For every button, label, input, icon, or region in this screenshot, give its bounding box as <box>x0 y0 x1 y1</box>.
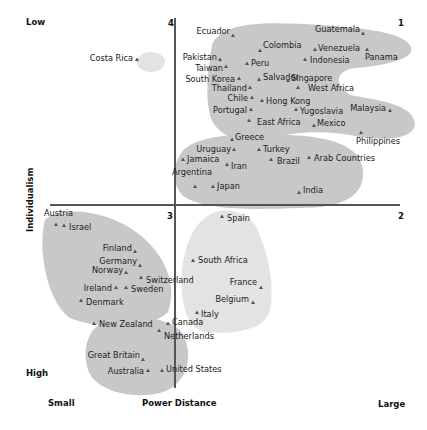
country-label: Indonesia <box>310 55 350 65</box>
country-label: Finland <box>103 243 132 253</box>
country-label: Philippines <box>356 136 400 146</box>
country-label: Peru <box>251 58 269 68</box>
country-label: Mexico <box>317 118 346 128</box>
country-label: Argentina <box>172 167 212 177</box>
y-axis-low-label: Low <box>26 17 45 27</box>
data-point: Guatemala <box>315 24 365 35</box>
country-label: Hong Kong <box>266 96 311 106</box>
country-label: Arab Countries <box>314 153 375 163</box>
data-point: Netherlands <box>157 329 214 342</box>
data-point: Yugoslavia <box>294 106 343 116</box>
country-label: Spain <box>227 213 250 223</box>
data-point: Singapore <box>286 73 332 83</box>
data-point: Uruguay <box>196 144 236 154</box>
data-point: Indonesia <box>303 55 350 65</box>
country-label: Turkey <box>262 144 290 154</box>
data-point: Canada <box>166 317 203 327</box>
country-label: Pakistan <box>183 52 217 62</box>
country-label: Uruguay <box>196 144 231 154</box>
x-axis-large-label: Large <box>378 399 405 409</box>
country-label: Venezuela <box>318 43 360 53</box>
country-label: Jamaica <box>186 154 219 164</box>
quadrant-3-label: 3 <box>167 211 173 221</box>
data-point: South Africa <box>191 255 248 265</box>
country-label: Great Britain <box>88 350 140 360</box>
data-point: Taiwan <box>194 63 228 73</box>
country-label: Netherlands <box>164 331 214 341</box>
data-point: Costa Rica <box>90 53 139 63</box>
data-point: United States <box>160 364 221 374</box>
country-label: South Africa <box>198 255 248 265</box>
country-label: Malaysia <box>350 103 386 113</box>
country-label: Chile <box>228 93 249 103</box>
country-label: India <box>303 185 323 195</box>
data-point: Norway <box>92 265 128 275</box>
data-point: Finland <box>103 243 137 253</box>
country-label: Portugal <box>213 105 247 115</box>
data-point: Jamaica <box>181 154 219 164</box>
data-point: Arab Countries <box>307 153 375 163</box>
country-label: Costa Rica <box>90 53 133 63</box>
country-label: France <box>230 277 257 287</box>
data-point: Greece <box>230 132 264 142</box>
country-label: Colombia <box>263 40 301 50</box>
power-distance-individualism-chart: Low High Small Power Distance Large Indi… <box>0 0 427 430</box>
quadrant-1-label: 1 <box>398 18 404 28</box>
y-axis-high-label: High <box>26 368 48 378</box>
country-label: West Africa <box>308 83 354 93</box>
country-label: Ecuador <box>197 26 231 36</box>
quadrant-2-label: 2 <box>398 211 404 221</box>
country-label: Norway <box>92 265 123 275</box>
country-label: Singapore <box>291 73 332 83</box>
country-label: Denmark <box>86 297 124 307</box>
quadrant-4-label: 4 <box>168 18 174 28</box>
country-label: Japan <box>216 181 240 191</box>
country-label: United States <box>166 364 221 374</box>
country-label: Greece <box>235 132 264 142</box>
country-label: Thailand <box>211 83 247 93</box>
data-point: Denmark <box>79 297 124 307</box>
data-point: Great Britain <box>88 350 145 361</box>
x-axis-title: Power Distance <box>142 398 217 408</box>
country-label: Brazil <box>277 156 300 166</box>
data-point: Venezuela <box>313 43 360 53</box>
country-label: Guatemala <box>315 24 360 34</box>
country-label: Sweden <box>131 284 163 294</box>
x-axis-small-label: Small <box>48 398 75 408</box>
country-label: New Zealand <box>99 319 153 329</box>
data-point: Australia <box>108 366 150 376</box>
data-point: Thailand <box>211 83 252 93</box>
country-label: Belgium <box>215 294 249 304</box>
country-label: Taiwan <box>194 63 223 73</box>
country-label: Iran <box>231 161 247 171</box>
cluster-latin-europe <box>182 211 272 333</box>
cluster-costa-rica <box>137 52 165 72</box>
country-label: Ireland <box>84 283 112 293</box>
country-label: Canada <box>172 317 203 327</box>
country-label: Yugoslavia <box>299 106 343 116</box>
data-point: Ecuador <box>197 26 235 37</box>
y-axis-title: Individualism <box>25 168 35 232</box>
country-label: East Africa <box>257 117 301 127</box>
country-label: Australia <box>108 366 144 376</box>
country-label: Italy <box>201 309 219 319</box>
data-point: Malaysia <box>350 103 392 113</box>
data-point: Pakistan <box>183 52 222 62</box>
country-label: Israel <box>69 222 91 232</box>
data-point: New Zealand <box>92 319 153 329</box>
data-point: Hong Kong <box>260 96 311 106</box>
data-point: Mexico <box>312 118 346 128</box>
country-label: Austria <box>44 208 73 218</box>
country-label: Panama <box>365 52 398 62</box>
